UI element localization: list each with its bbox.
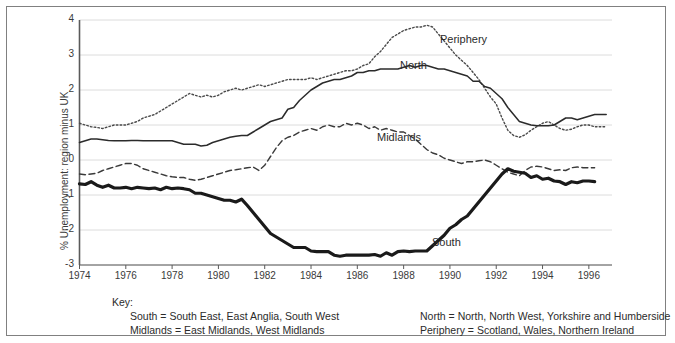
key-entry-left-0: South = South East, East Anglia, South W… — [130, 309, 420, 323]
key-title: Key: — [112, 296, 670, 308]
x-tick-label-1984: 1984 — [291, 270, 331, 281]
x-tick-label-1978: 1978 — [152, 270, 192, 281]
x-tick-label-1994: 1994 — [523, 270, 563, 281]
x-tick-label-1986: 1986 — [337, 270, 377, 281]
x-tick-label-1988: 1988 — [384, 270, 424, 281]
y-tick-label-2: 2 — [56, 83, 74, 94]
x-tick-label-1982: 1982 — [245, 270, 285, 281]
key-entries: South = South East, East Anglia, South W… — [130, 309, 670, 337]
y-tick-label-0: 0 — [56, 153, 74, 164]
x-tick-label-1996: 1996 — [569, 270, 609, 281]
series-label-midlands: Midlands — [377, 131, 421, 143]
x-tick-label-1980: 1980 — [198, 270, 238, 281]
line-chart-plot — [0, 0, 675, 343]
key-entry-right-1: Periphery = Scotland, Wales, Northern Ir… — [420, 323, 670, 337]
y-tick-label--2: -2 — [56, 223, 74, 234]
key-entry-right-0: North = North, North West, Yorkshire and… — [420, 309, 670, 323]
series-line-periphery — [80, 25, 607, 137]
series-label-periphery: Periphery — [440, 33, 487, 45]
figure-container: % Unemployment: region minus UK 43210-1-… — [0, 0, 675, 343]
series-label-north: North — [400, 59, 427, 71]
y-tick-label-1: 1 — [56, 118, 74, 129]
x-tick-label-1976: 1976 — [106, 270, 146, 281]
y-tick-label--1: -1 — [56, 188, 74, 199]
y-tick-label-3: 3 — [56, 48, 74, 59]
chart-key: Key: South = South East, East Anglia, So… — [112, 296, 670, 337]
series-label-south: South — [432, 236, 461, 248]
y-tick-label-4: 4 — [56, 13, 74, 24]
series-line-south — [80, 169, 595, 257]
key-entry-left-1: Midlands = East Midlands, West Midlands — [130, 323, 420, 337]
x-tick-label-1974: 1974 — [60, 270, 100, 281]
x-tick-label-1992: 1992 — [476, 270, 516, 281]
x-tick-label-1990: 1990 — [430, 270, 470, 281]
y-tick-label--3: -3 — [56, 258, 74, 269]
